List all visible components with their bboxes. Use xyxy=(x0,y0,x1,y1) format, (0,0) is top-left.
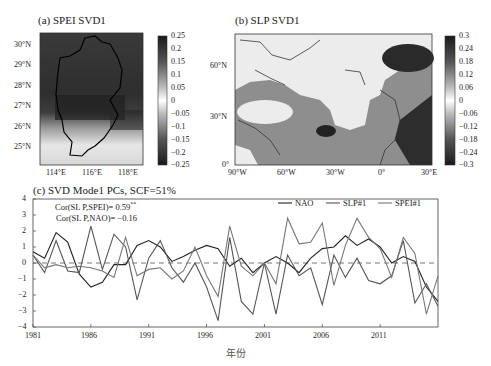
panel-b-map xyxy=(235,34,434,165)
panel-a-colorbar xyxy=(158,36,167,165)
legend-nao-label: NAO xyxy=(295,198,313,208)
x-axis-label: 年份 xyxy=(226,345,246,360)
panel-b-title: (b) SLP SVD1 xyxy=(235,14,299,26)
panel-b-colorbar xyxy=(445,36,455,165)
legend-spei-label: SPEI#1 xyxy=(395,198,421,208)
correlation-slp-spei: Cor(SL P,SPEI)= 0.59** xyxy=(55,201,136,212)
panel-a-map xyxy=(40,33,143,165)
legend-slp-label: SLP#1 xyxy=(343,198,366,208)
correlation-slp-nao: Cor(SL P,NAO)= −0.16 xyxy=(56,213,137,223)
figure-canvas xyxy=(0,0,491,366)
panel-c-title: (c) SVD Mode1 PCs, SCF=51% xyxy=(33,184,176,196)
